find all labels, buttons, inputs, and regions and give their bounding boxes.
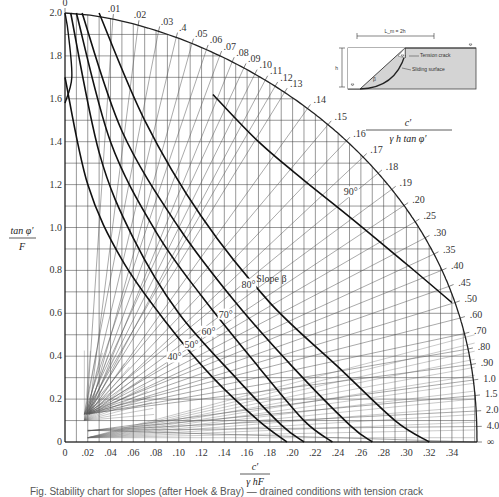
x-tick-label: .02 bbox=[82, 447, 95, 458]
x-tick-label: .20 bbox=[286, 447, 299, 458]
arc-tick-label: .45 bbox=[458, 277, 471, 288]
x-tick-label: 0 bbox=[63, 447, 68, 458]
y-tick-label: 1.2 bbox=[50, 179, 63, 190]
x-tick-label: .28 bbox=[377, 447, 390, 458]
arc-tick-label: 2.0 bbox=[486, 404, 499, 415]
arc-tick-label: .08 bbox=[236, 47, 249, 58]
arc-tick-label: .14 bbox=[313, 94, 326, 105]
arc-tick-label: .25 bbox=[424, 210, 437, 221]
arc-tick-label: .16 bbox=[353, 128, 366, 139]
arc-tick-label: .4 bbox=[179, 22, 187, 33]
arc-tick-label: .50 bbox=[465, 293, 478, 304]
svg-text:γ h tan φ′: γ h tan φ′ bbox=[390, 133, 428, 144]
arc-tick-label: .70 bbox=[474, 325, 487, 336]
arc-tick-label: .35 bbox=[443, 244, 456, 255]
arc-tick-label: .03 bbox=[161, 16, 174, 27]
x-tick-label: .24 bbox=[332, 447, 345, 458]
slope-curve-label: 70° bbox=[219, 309, 233, 320]
arc-tick-label: .18 bbox=[386, 161, 399, 172]
arc-tick-label: 1.0 bbox=[483, 373, 496, 384]
arc-tick-label: .02 bbox=[134, 9, 147, 20]
slope-curve-label: 90° bbox=[344, 186, 358, 197]
svg-text:c′: c′ bbox=[405, 117, 412, 128]
x-tick-label: .16 bbox=[241, 447, 254, 458]
y-axis-title: tan φ′ F bbox=[9, 225, 36, 252]
arc-tick-label: .40 bbox=[451, 260, 464, 271]
arc-tick-label: .17 bbox=[370, 144, 383, 155]
y-tick-label: 1.4 bbox=[50, 136, 63, 147]
slope-inset-diagram: L_m = 2h h Tension crack Sliding surface… bbox=[335, 28, 476, 89]
slope-curve-label: 40° bbox=[167, 351, 181, 362]
x-tick-label: .04 bbox=[104, 447, 117, 458]
x-tick-label: .22 bbox=[309, 447, 322, 458]
y-tick-label: 2.0 bbox=[50, 7, 63, 18]
x-tick-label: .14 bbox=[218, 447, 231, 458]
svg-text:β: β bbox=[373, 76, 376, 82]
arc-tick-label: .30 bbox=[434, 227, 447, 238]
x-tick-label: .06 bbox=[127, 447, 140, 458]
svg-text:Tension crack: Tension crack bbox=[420, 52, 451, 58]
x-tick-label: .08 bbox=[150, 447, 163, 458]
arc-tick-label: .01 bbox=[108, 3, 121, 14]
figure-caption: Fig. Stability chart for slopes (after H… bbox=[30, 486, 423, 497]
svg-text:c′: c′ bbox=[252, 461, 259, 472]
arc-tick-label: .06 bbox=[210, 34, 223, 45]
x-tick-label: .32 bbox=[423, 447, 436, 458]
y-tick-label: 0.2 bbox=[50, 393, 63, 404]
sliding-surface-label: Sliding surface bbox=[412, 66, 445, 72]
y-tick-label: 0.8 bbox=[50, 264, 63, 275]
y-tick-label: 0.4 bbox=[50, 350, 63, 361]
arc-tick-label: .05 bbox=[195, 28, 208, 39]
arc-tick-label: .15 bbox=[334, 111, 347, 122]
svg-text:F: F bbox=[18, 241, 26, 252]
arc-tick-label: .90 bbox=[481, 357, 494, 368]
svg-text:h: h bbox=[335, 65, 338, 71]
slope-curve-label: 60° bbox=[202, 326, 216, 337]
y-tick-label: 0.6 bbox=[50, 307, 63, 318]
arc-tick-label: .19 bbox=[400, 177, 413, 188]
slope-beta-title: Slope β bbox=[256, 273, 286, 284]
y-tick-label: 1.6 bbox=[50, 93, 63, 104]
x-tick-label: .12 bbox=[195, 447, 208, 458]
x-tick-label: .30 bbox=[400, 447, 413, 458]
arc-tick-label: .07 bbox=[224, 41, 237, 52]
arc-tick-label: 0 bbox=[63, 0, 68, 8]
slope-curve-label: 80° bbox=[241, 279, 255, 290]
x-tick-label: .18 bbox=[264, 447, 277, 458]
x-tick-label: .34 bbox=[446, 447, 459, 458]
svg-text:tan φ′: tan φ′ bbox=[11, 225, 35, 236]
arc-tick-label: .13 bbox=[290, 78, 303, 89]
svg-text:L_m = 2h: L_m = 2h bbox=[385, 28, 406, 34]
y-tick-label: 0 bbox=[57, 436, 62, 447]
x-axis-title: c′ γ hF bbox=[240, 461, 270, 487]
arc-tick-label: .80 bbox=[478, 341, 491, 352]
x-tick-label: .10 bbox=[173, 447, 186, 458]
arc-tick-label: ∞ bbox=[487, 436, 494, 447]
x-tick-label: .26 bbox=[355, 447, 368, 458]
arc-tick-label: .60 bbox=[470, 309, 483, 320]
y-tick-label: 1.8 bbox=[50, 50, 63, 61]
arc-tick-label: 1.5 bbox=[485, 388, 498, 399]
arc-tick-label: 4.0 bbox=[487, 420, 499, 431]
arc-tick-label: .20 bbox=[412, 194, 425, 205]
arc-axis-title: c′ γ h tan φ′ bbox=[366, 117, 452, 144]
slope-curve-label: 50° bbox=[184, 339, 198, 350]
y-tick-label: 1.0 bbox=[50, 222, 63, 233]
